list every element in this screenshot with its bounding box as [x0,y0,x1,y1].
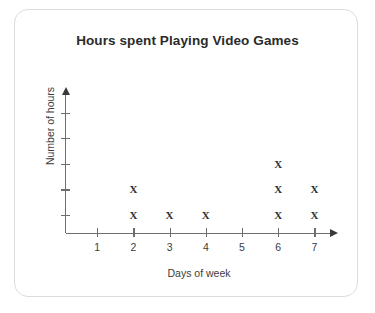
x-axis-tick-label: 1 [85,241,109,253]
x-axis-tick-label: 6 [266,241,290,253]
x-axis-tick [170,228,171,237]
chart-plot-area: 1234567 XXXXXXXXX Number of hours Days o… [0,0,375,313]
data-point-mark: X [306,207,322,223]
x-axis-tick-label: 2 [121,241,145,253]
x-axis-tick-label: 7 [302,241,326,253]
x-axis-line [66,233,332,234]
data-point-mark: X [306,181,322,197]
x-axis-tick [133,228,134,237]
y-axis-tick [61,138,70,139]
data-point-mark: X [270,207,286,223]
data-point-mark: X [270,156,286,172]
y-axis-tick [61,215,70,216]
x-axis-tick-label: 3 [158,241,182,253]
y-axis-tick [61,164,70,165]
x-axis-tick-label: 5 [230,241,254,253]
data-point-mark: X [270,181,286,197]
y-axis-arrow-icon [62,87,70,95]
x-axis-tick [206,228,207,237]
x-axis-tick [278,228,279,237]
y-axis-tick [61,113,70,114]
x-axis-tick-label: 4 [194,241,218,253]
y-axis-label: Number of hours [44,66,56,186]
y-axis-tick [61,189,70,190]
x-axis-label: Days of week [66,267,332,279]
data-point-mark: X [198,207,214,223]
x-axis-tick [314,228,315,237]
x-axis-tick [242,228,243,237]
data-point-mark: X [125,207,141,223]
data-point-mark: X [162,207,178,223]
data-point-mark: X [125,181,141,197]
x-axis-arrow-icon [330,229,338,237]
x-axis-tick [97,228,98,237]
